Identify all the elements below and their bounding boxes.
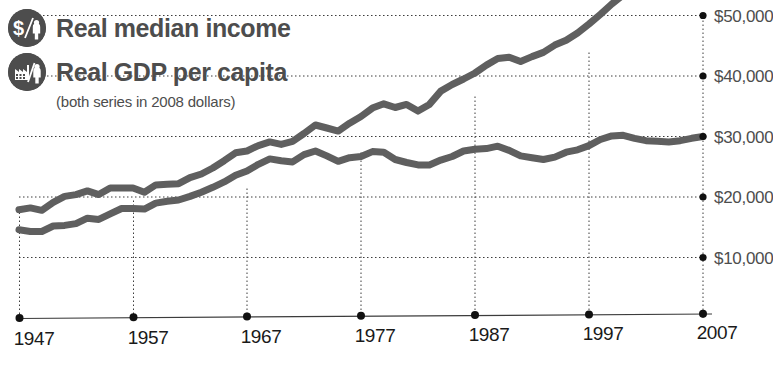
y-tick-label-20000: $20,000	[714, 188, 773, 207]
y-tick-label-50000: $50,000	[714, 7, 773, 26]
legend-item-real-gdp-per-capita: Real GDP per capita	[8, 52, 291, 92]
x-tick-label-1947: 1947	[14, 328, 55, 349]
x-tick-label-1957: 1957	[128, 327, 169, 348]
x-axis-line	[19, 314, 712, 319]
legend-subtitle: (both series in 2008 dollars)	[56, 93, 291, 110]
x-tick-dot-2007	[699, 310, 707, 318]
x-tick-label-1977: 1977	[355, 325, 396, 346]
x-tick-label-2007: 2007	[697, 322, 738, 343]
y-tick-label-10000: $10,000	[714, 249, 773, 268]
y-tick-label-40000: $40,000	[714, 67, 773, 86]
x-tick-dot-1987	[471, 311, 479, 319]
dollar-person-icon: $	[8, 9, 46, 47]
x-tick-dot-1997	[585, 310, 593, 318]
x-axis-labels: 1947 1957 1967 1977 1987 1997 2007	[14, 322, 738, 349]
x-tick-label-1997: 1997	[583, 323, 624, 344]
y-tick-dot-30000	[699, 133, 706, 140]
x-tick-label-1967: 1967	[241, 326, 282, 347]
x-axis-ticks	[16, 310, 708, 322]
factory-person-icon	[8, 53, 46, 91]
y-axis-labels: $50,000 $40,000 $30,000 $20,000 $10,000	[714, 7, 773, 268]
x-tick-dot-1957	[130, 313, 138, 321]
x-tick-dot-1967	[243, 313, 251, 321]
y-tick-dot-40000	[699, 72, 706, 79]
chart-page: $50,000 $40,000 $30,000 $20,000 $10,000 …	[0, 0, 773, 371]
y-tick-dot-20000	[699, 193, 706, 200]
y-tick-dot-10000	[699, 254, 706, 261]
svg-text:$: $	[13, 17, 24, 39]
chart-legend: $ Real median income	[8, 8, 291, 110]
x-tick-dot-1947	[16, 314, 24, 322]
legend-label-real-gdp-per-capita: Real GDP per capita	[56, 60, 287, 85]
x-tick-dot-1977	[357, 312, 365, 320]
y-tick-label-30000: $30,000	[714, 128, 773, 147]
legend-label-real-median-income: Real median income	[56, 16, 291, 41]
x-tick-label-1987: 1987	[469, 324, 510, 345]
y-tick-dot-50000	[699, 12, 706, 19]
legend-item-real-median-income: $ Real median income	[8, 8, 291, 48]
